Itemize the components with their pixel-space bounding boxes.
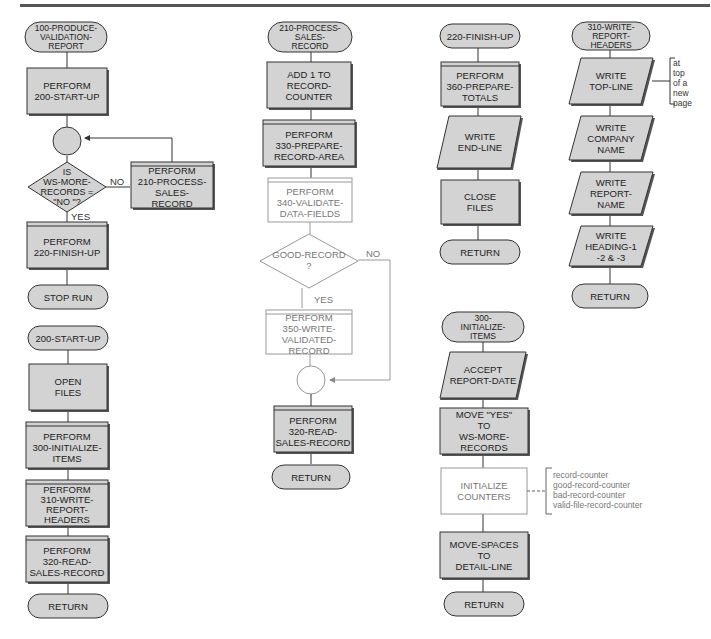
process-move-yes [440, 408, 528, 454]
edge-label-yes-210: YES [314, 294, 333, 305]
io-write-report-name [569, 172, 653, 214]
module-210 [263, 22, 357, 178]
terminal-220 [440, 24, 520, 48]
module-220 [437, 24, 523, 264]
terminal-stop [28, 285, 108, 309]
predefined-perform-210 [131, 162, 213, 208]
io-write-top-line [569, 58, 653, 104]
module-210-light [260, 178, 390, 394]
edge-label-no: NO [110, 176, 124, 187]
module-300 [440, 312, 552, 616]
predefined-perform-320-b [274, 406, 352, 452]
io-write-headings [569, 226, 653, 266]
predefined-perform-330 [263, 120, 355, 166]
terminal-return-220 [440, 240, 520, 264]
edge-label-no-210: NO [366, 248, 380, 259]
predefined-perform-220 [27, 222, 107, 268]
process-perform-200 [27, 68, 107, 114]
predefined-perform-300 [26, 422, 108, 468]
terminal-210 [268, 22, 352, 52]
process-open-files [29, 364, 107, 410]
terminal-return-310 [572, 284, 648, 308]
terminal-310 [572, 22, 650, 50]
predefined-perform-350 [266, 310, 352, 354]
io-write-end-line [437, 116, 521, 168]
process-move-spaces [440, 532, 528, 578]
terminal-start [25, 22, 107, 52]
decision-more-records [28, 162, 106, 212]
io-accept-report-date [440, 352, 526, 398]
connector-210 [297, 366, 325, 394]
process-close-files [441, 180, 519, 224]
annotation-counters: record-counter good-record-counter bad-r… [553, 470, 703, 510]
terminal-return-210 [272, 465, 350, 489]
annotation-top-of-page: at top of a new page [673, 58, 709, 108]
predefined-perform-360 [441, 62, 519, 106]
flowchart-canvas [0, 0, 711, 639]
predefined-perform-340 [268, 178, 352, 222]
connector [53, 127, 81, 155]
terminal-300 [442, 312, 524, 342]
process-initialize-counters [441, 468, 527, 514]
io-write-company-name [569, 116, 653, 160]
terminal-200 [28, 326, 108, 350]
terminal-return-200 [28, 594, 108, 618]
decision-good-record [260, 234, 358, 288]
module-200 [26, 326, 110, 618]
predefined-perform-310 [26, 480, 108, 526]
terminal-return-300 [444, 592, 524, 616]
predefined-perform-320 [26, 536, 108, 582]
module-100 [25, 22, 215, 309]
module-310 [569, 22, 675, 308]
process-add-record-counter [267, 62, 351, 108]
edge-label-yes: YES [71, 211, 90, 222]
